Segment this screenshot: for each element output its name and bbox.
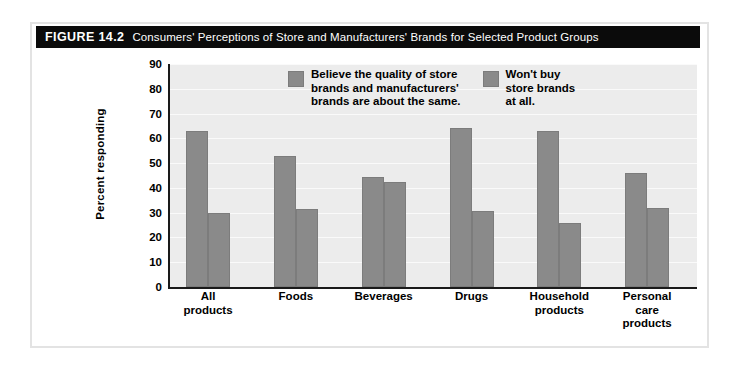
bar (362, 177, 384, 287)
x-axis-label: Foods (246, 290, 346, 304)
bar (647, 208, 669, 287)
y-axis-tick: 50 (128, 157, 162, 169)
bar (296, 209, 318, 287)
figure-caption: Consumers' Perceptions of Store and Manu… (132, 31, 598, 43)
y-axis-tick: 10 (128, 256, 162, 268)
bar (559, 223, 581, 287)
bar (208, 213, 230, 287)
y-axis-tick: 0 (128, 281, 162, 293)
legend-entry: Believe the quality of store brands and … (288, 68, 461, 109)
figure-number: FIGURE 14.2 (45, 30, 124, 44)
legend-swatch-icon (288, 71, 304, 87)
chart-legend: Believe the quality of store brands and … (288, 68, 575, 109)
legend-swatch-icon (483, 71, 499, 87)
y-axis-tick-labels: 0102030405060708090 (128, 64, 162, 287)
legend-label: Believe the quality of store brands and … (311, 68, 461, 109)
y-axis-title: Percent responding (94, 94, 106, 234)
legend-entry: Won't buy store brands at all. (483, 68, 576, 109)
x-axis-label: Allproducts (158, 290, 258, 317)
bar (625, 173, 647, 287)
x-axis-label: Beverages (334, 290, 434, 304)
y-axis-tick: 60 (128, 132, 162, 144)
figure-title-bar: FIGURE 14.2 Consumers' Perceptions of St… (36, 26, 700, 48)
legend-label: Won't buy store brands at all. (506, 68, 576, 109)
y-axis-tick: 90 (128, 58, 162, 70)
x-axis-label: Personalcareproducts (597, 290, 697, 331)
bar (450, 128, 472, 287)
bar (472, 211, 494, 287)
chart-area: Percent responding 0102030405060708090 A… (36, 50, 700, 345)
x-axis-label: Householdproducts (509, 290, 609, 317)
bar (384, 182, 406, 287)
y-axis-tick: 30 (128, 207, 162, 219)
y-axis-tick: 40 (128, 182, 162, 194)
y-axis-tick: 20 (128, 231, 162, 243)
bar (537, 131, 559, 287)
y-axis-tick: 70 (128, 108, 162, 120)
bar (274, 156, 296, 287)
x-axis-label: Drugs (422, 290, 522, 304)
bar (186, 131, 208, 287)
x-axis-labels: AllproductsFoodsBeveragesDrugsHouseholdp… (170, 290, 697, 342)
y-axis-tick: 80 (128, 83, 162, 95)
